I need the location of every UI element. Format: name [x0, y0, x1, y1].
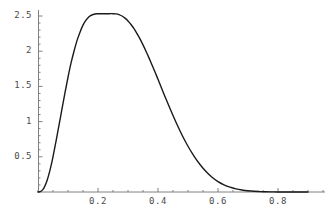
y-tick-label: 2.5	[0, 11, 32, 20]
y-tick-label: 1	[0, 117, 32, 126]
y-tick-label: 2	[0, 46, 32, 55]
x-tick-label: 0.6	[198, 197, 238, 206]
plot-canvas	[0, 0, 331, 217]
axis-group	[38, 10, 325, 192]
x-tick-label: 0.2	[78, 197, 118, 206]
y-tick-label: 1.5	[0, 81, 32, 90]
y-tick-label: 0.5	[0, 152, 32, 161]
density-curve	[38, 14, 308, 192]
x-tick-label: 0.8	[258, 197, 298, 206]
x-tick-label: 0.4	[138, 197, 178, 206]
chart-figure: 0.20.40.60.8 0.511.522.5	[0, 0, 331, 217]
y-tick-marks	[39, 16, 43, 192]
